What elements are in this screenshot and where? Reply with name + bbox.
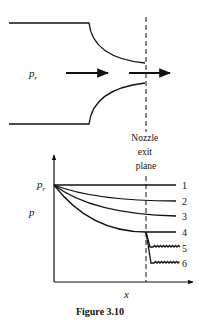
exit-plane-label: Nozzle exit plane — [131, 133, 160, 171]
curve-label-3: 3 — [182, 211, 187, 222]
y-axis-label: p — [28, 206, 35, 218]
start-pressure-label: pr — [36, 178, 46, 193]
curve-label-1: 1 — [182, 180, 187, 191]
curve-label-4: 4 — [182, 227, 187, 238]
inlet-pressure-label: pr — [28, 67, 38, 82]
nozzle-upper-wall — [9, 23, 145, 63]
curve-2 — [54, 185, 176, 201]
curve-4 — [54, 185, 176, 232]
figure-caption: Figure 3.10 — [76, 306, 124, 317]
curve-label-2: 2 — [182, 196, 187, 207]
curve-5 — [146, 232, 180, 247]
curve-label-6: 6 — [182, 258, 187, 269]
nozzle-figure: pr Nozzle exit plane 1 2 3 4 5 6 pr p x … — [0, 0, 199, 322]
curve-label-5: 5 — [182, 243, 187, 254]
nozzle-lower-wall — [9, 83, 145, 124]
x-axis-label: x — [123, 288, 129, 300]
